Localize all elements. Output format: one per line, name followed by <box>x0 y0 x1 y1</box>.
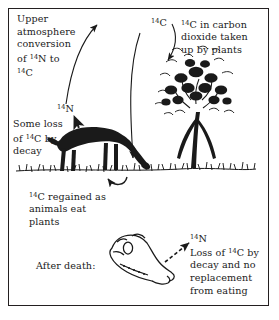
ground-line-figure <box>16 162 256 172</box>
label-regained: 14C regained asanimals eatplants <box>29 189 127 229</box>
isotope-label-n14-middle: 14N <box>57 102 74 114</box>
arrow-c14-to-ground-icon <box>131 33 140 158</box>
arrow-c14-to-tree-icon <box>168 24 175 60</box>
tree-figure <box>155 46 234 168</box>
label-some-loss: Some lossof 14C bydecay <box>13 118 85 158</box>
arrow-skull-decay-icon <box>165 243 189 262</box>
label-loss-no-replacement: Loss of 14C bydecay and noreplacementfro… <box>190 245 274 297</box>
isotope-label-c14-top: 14C <box>151 16 167 28</box>
label-carbon-dioxide: 14C in carbondioxide takenup by plants <box>181 17 267 57</box>
label-upper-atmosphere: Upperatmosphereconversionof 14N to14C <box>17 13 101 80</box>
arrow-plants-to-animal-icon <box>108 177 127 184</box>
label-after-death: After death: <box>36 260 132 273</box>
isotope-label-n14-skull: 14N <box>190 232 207 244</box>
